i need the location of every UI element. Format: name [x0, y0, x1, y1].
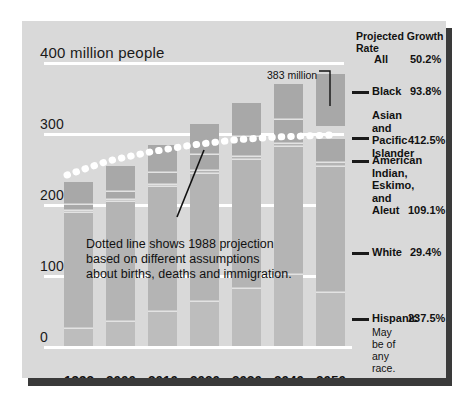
legend-tick-white — [352, 252, 369, 255]
legend-value-american-indian: 109.1% — [408, 204, 445, 216]
x-axis-labels: 1992 2000 2010 2020 2030 2040 2050 — [22, 373, 352, 378]
legend-label-all: All — [374, 53, 388, 66]
xlab-2050: 2050 — [309, 373, 353, 378]
legend-tick-black — [352, 91, 369, 94]
legend-value-all: 50.2% — [410, 53, 441, 65]
chart-panel: 400 million people 300 200 100 0 — [22, 21, 446, 378]
legend: Projected Growth Rate All 50.2% Black 93… — [352, 21, 446, 378]
legend-value-white: 29.4% — [410, 246, 441, 258]
legend-title: Projected Growth Rate — [356, 30, 446, 54]
legend-value-asian-pacific-islander: 412.5% — [408, 134, 445, 146]
callout-leader-line — [22, 21, 352, 378]
legend-tick-asian-pacific-islander — [352, 137, 369, 140]
xlab-2000: 2000 — [99, 373, 143, 378]
legend-value-black: 93.8% — [410, 85, 441, 97]
xlab-2040: 2040 — [267, 373, 311, 378]
legend-label-white: White — [372, 246, 402, 259]
xlab-2020: 2020 — [183, 373, 227, 378]
legend-tick-hispanic — [352, 318, 369, 321]
legend-note-hispanic: May be of any race. — [372, 326, 395, 374]
legend-tick-american-indian — [352, 160, 369, 163]
legend-label-black: Black — [372, 85, 401, 98]
plot-area: 400 million people 300 200 100 0 — [22, 21, 352, 378]
xlab-2030: 2030 — [225, 373, 269, 378]
xlab-2010: 2010 — [141, 373, 185, 378]
legend-value-hispanic: 237.5% — [408, 312, 445, 324]
chart-figure: 400 million people 300 200 100 0 — [0, 0, 458, 397]
xlab-1992: 1992 — [57, 373, 101, 378]
